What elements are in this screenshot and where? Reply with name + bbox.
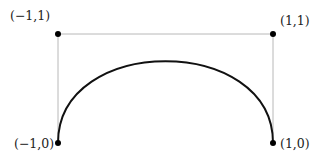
label-p2: (1,1): [280, 13, 310, 28]
control-point-p0: [55, 140, 61, 146]
label-p0: (−1,0): [14, 136, 54, 151]
control-point-p2: [270, 31, 276, 37]
control-point-p3: [270, 140, 276, 146]
bezier-curve: [58, 61, 273, 143]
label-p3: (1,0): [280, 136, 310, 151]
label-p1: (−1,1): [10, 8, 50, 23]
control-point-p1: [55, 31, 61, 37]
bezier-diagram: (−1,1) (1,1) (−1,0) (1,0): [0, 0, 319, 160]
control-polygon: [58, 34, 273, 143]
